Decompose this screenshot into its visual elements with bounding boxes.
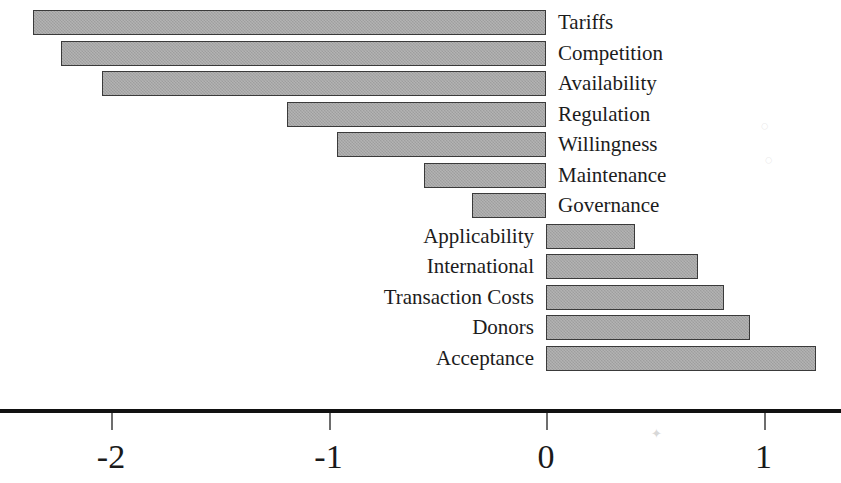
bar[interactable] [61,41,546,66]
bar[interactable] [546,224,635,249]
x-tick-label: -2 [76,437,146,477]
bar-row: Donors [0,314,841,345]
scan-artifact-c: ✦ [651,426,662,442]
x-tick-label: 0 [511,437,581,477]
x-axis-line [0,409,841,413]
bar-label: Availability [558,70,657,97]
bar[interactable] [33,10,546,35]
bar-row: Transaction Costs [0,284,841,315]
bar-label: Willingness [558,131,657,158]
bar[interactable] [546,315,750,340]
bar-chart: TariffsCompetitionAvailabilityRegulation… [0,0,841,483]
bar-label: Regulation [558,101,650,128]
scan-artifact-a: ◌ [761,118,769,134]
bar[interactable] [287,102,546,127]
bar-row: Acceptance [0,345,841,376]
x-tick-mark [764,413,766,430]
plot-area: TariffsCompetitionAvailabilityRegulation… [0,0,841,400]
bar[interactable] [546,346,816,371]
bar-label: Competition [558,40,663,67]
bar[interactable] [546,254,698,279]
bar-row: Applicability [0,223,841,254]
bar-label: Donors [0,314,534,341]
bar-row: Regulation [0,101,841,132]
bar-row: Governance [0,192,841,223]
x-tick-label: 1 [729,437,799,477]
bar-label: Governance [558,192,659,219]
bar-label: Transaction Costs [0,284,534,311]
bar-label: Maintenance [558,162,666,189]
x-tick-label: -1 [294,437,364,477]
bar-label: International [0,253,534,280]
bar-row: Availability [0,70,841,101]
bar-label: Acceptance [0,345,534,372]
scan-artifact-b: ◌ [765,152,773,168]
x-tick-mark [546,413,548,430]
bar-row: Tariffs [0,9,841,40]
bar-row: Competition [0,40,841,71]
bar[interactable] [102,71,546,96]
bar[interactable] [424,163,546,188]
bar-row: Willingness [0,131,841,162]
x-tick-mark [329,413,331,430]
bar[interactable] [337,132,546,157]
bar-label: Applicability [0,223,534,250]
bar-label: Tariffs [558,9,613,36]
bar-row: International [0,253,841,284]
bar-row: Maintenance [0,162,841,193]
bar[interactable] [546,285,724,310]
bar[interactable] [472,193,546,218]
x-tick-mark [111,413,113,430]
